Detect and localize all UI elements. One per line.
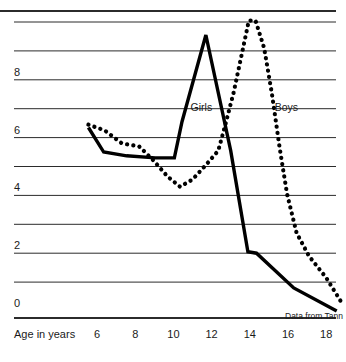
series-label-boys: Boys <box>275 102 298 113</box>
y-tick-label: 8 <box>14 67 20 78</box>
x-tick-label: 12 <box>205 329 217 340</box>
source-note: Data from Tann <box>285 312 343 321</box>
x-tick-label: 6 <box>94 329 100 340</box>
data-series-group <box>88 21 340 311</box>
x-tick-label: 16 <box>282 329 294 340</box>
y-tick-label: 0 <box>14 298 20 309</box>
gridlines-group <box>0 11 336 318</box>
x-tick-label: 18 <box>320 329 332 340</box>
y-tick-label: 6 <box>14 125 20 136</box>
y-tick-label: 2 <box>14 240 20 251</box>
x-tick-label: 10 <box>167 329 179 340</box>
x-tick-label: 8 <box>132 329 138 340</box>
series-label-girls: Girls <box>191 102 213 113</box>
y-tick-label: 4 <box>14 182 20 193</box>
chart-plot-area <box>0 0 346 362</box>
x-axis-title: Age in years <box>14 329 75 340</box>
chart-container: 02468 681012141618 GirlsBoys Age in year… <box>0 0 346 362</box>
series-line-boys <box>88 21 340 301</box>
x-tick-label: 14 <box>244 329 256 340</box>
series-line-girls <box>88 35 336 311</box>
